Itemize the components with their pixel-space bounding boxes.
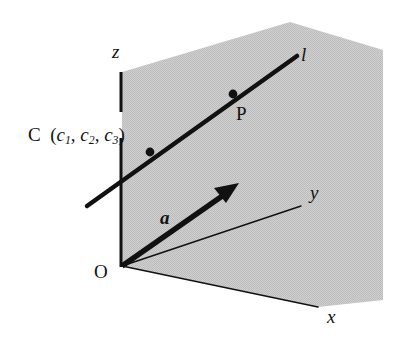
point-c-coord-2: c xyxy=(80,124,88,145)
origin-label: O xyxy=(94,262,108,281)
point-c-comma-1: , xyxy=(71,124,76,145)
point-p-marker xyxy=(229,90,238,99)
vector-a-label: a xyxy=(160,208,170,227)
point-c-coord-1: c xyxy=(57,124,65,145)
shaded-plane xyxy=(122,22,383,307)
x-axis-label: x xyxy=(327,307,335,326)
vector-line-3d-figure: z l P C (c1, c2, c3) a y O x xyxy=(0,0,410,348)
point-c-coord-3: c xyxy=(104,124,112,145)
y-axis-label: y xyxy=(310,183,318,202)
point-p-label: P xyxy=(236,104,247,123)
point-c-comma-2: , xyxy=(95,124,100,145)
point-c-marker xyxy=(146,148,155,157)
point-c-name: C xyxy=(28,124,41,145)
point-c-close-paren: ) xyxy=(119,124,125,145)
line-label: l xyxy=(301,45,306,64)
point-c-label: C (c1, c2, c3) xyxy=(28,125,125,146)
z-axis-label: z xyxy=(112,42,119,61)
figure-canvas xyxy=(0,0,410,348)
